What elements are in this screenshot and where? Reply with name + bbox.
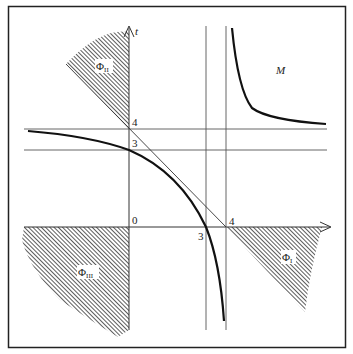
region-phi-iii xyxy=(22,227,129,337)
tick-label-s4: 4 xyxy=(229,215,235,227)
region-phi-ii xyxy=(66,32,129,129)
curve-m xyxy=(232,28,326,124)
diagram-canvas: t 4 3 0 3 4 M ΦII ΦIII ΦI xyxy=(0,0,353,354)
tangent-line xyxy=(66,64,226,227)
origin-label: 0 xyxy=(132,214,138,226)
region-label-m: M xyxy=(275,64,286,76)
tick-label-t4: 4 xyxy=(132,116,138,128)
region-phi-i xyxy=(226,227,322,312)
t-axis-label: t xyxy=(135,25,139,37)
tick-label-s3: 3 xyxy=(198,230,204,242)
tick-label-t3: 3 xyxy=(132,137,138,149)
